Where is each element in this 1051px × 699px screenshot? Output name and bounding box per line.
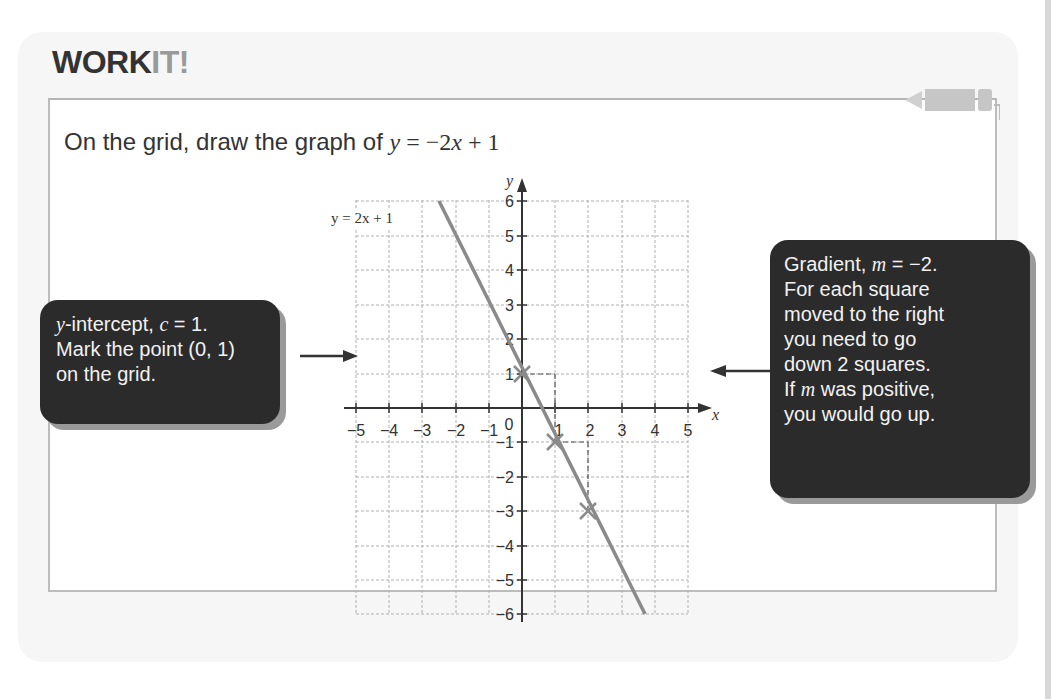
svg-text:−6: −6 <box>496 606 514 623</box>
arrow-left-icon <box>710 365 726 377</box>
callout-line: Mark the point (0, 1) <box>56 337 264 362</box>
intercept-callout: y-intercept, c = 1. Mark the point (0, 1… <box>40 300 280 424</box>
callout-line: you need to go <box>784 327 1016 352</box>
callout-line: you would go up. <box>784 402 1016 427</box>
x-tick-labels: −5 −4 −3 −2 −1 0 1 2 3 4 5 <box>347 416 693 439</box>
svg-text:4: 4 <box>505 262 514 279</box>
svg-text:1: 1 <box>505 366 514 383</box>
svg-text:−2: −2 <box>496 469 514 486</box>
svg-text:3: 3 <box>618 422 627 439</box>
callout-line: down 2 squares. <box>784 352 1016 377</box>
x-axis-label: x <box>711 406 719 423</box>
svg-text:−5: −5 <box>496 572 514 589</box>
y-axis-label: y <box>504 172 514 190</box>
callout-line: For each square <box>784 277 1016 302</box>
svg-text:4: 4 <box>651 422 660 439</box>
svg-text:5: 5 <box>505 228 514 245</box>
callout-line: on the grid. <box>56 362 264 387</box>
svg-text:−4: −4 <box>496 538 514 555</box>
svg-text:2: 2 <box>586 422 595 439</box>
line-label: y = 2x + 1 <box>331 210 393 226</box>
svg-text:3: 3 <box>505 297 514 314</box>
gradient-callout: Gradient, m = −2. For each square moved … <box>770 240 1030 498</box>
svg-text:−2: −2 <box>447 422 465 439</box>
x-axis-arrow-icon <box>698 403 712 413</box>
y-axis-arrow-icon <box>517 178 527 192</box>
callout-line: moved to the right <box>784 302 1016 327</box>
svg-text:−3: −3 <box>496 503 514 520</box>
svg-text:−4: −4 <box>380 422 398 439</box>
callout-line: If m was positive, <box>784 377 1016 402</box>
svg-text:6: 6 <box>505 193 514 210</box>
svg-text:5: 5 <box>684 422 693 439</box>
svg-text:0: 0 <box>505 416 514 433</box>
svg-text:−1: −1 <box>496 434 514 451</box>
callout-line: y-intercept, c = 1. <box>56 312 264 337</box>
axes <box>344 186 705 622</box>
svg-text:−3: −3 <box>413 422 431 439</box>
svg-text:−5: −5 <box>347 422 365 439</box>
callout-line: Gradient, m = −2. <box>784 252 1016 277</box>
